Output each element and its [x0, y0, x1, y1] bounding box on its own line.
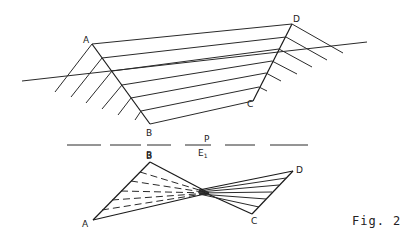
label-upper-c: C	[247, 99, 253, 109]
label-p: P	[204, 134, 210, 144]
label-lower-a: A	[82, 219, 89, 229]
label-lower-c: C	[251, 216, 257, 226]
edge-lower-xc	[199, 190, 252, 214]
label-upper-b: B	[146, 128, 152, 138]
upper-view: A B C D	[22, 14, 367, 138]
descriptive-geometry-figure: A B C D B P E1	[0, 0, 409, 240]
label-upper-d: D	[293, 14, 300, 24]
label-lower-b: B	[146, 151, 152, 161]
edge-lower-xd	[199, 171, 293, 190]
label-upper-a: A	[83, 35, 90, 45]
figure-caption: Fig. 2	[352, 214, 401, 228]
label-lower-d: D	[296, 165, 303, 175]
label-e1: E1	[198, 148, 208, 159]
lower-view: A B C D	[82, 151, 303, 229]
edge-cd	[253, 24, 292, 101]
hatch-right-slope	[259, 24, 343, 91]
projection-separator: B P E1	[67, 134, 308, 160]
hidden-rulings	[102, 172, 209, 210]
